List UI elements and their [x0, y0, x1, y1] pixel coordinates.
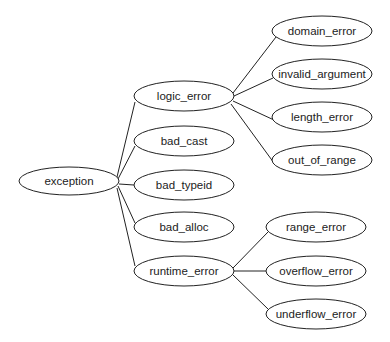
node-range-error: range_error — [266, 212, 366, 242]
node-underflow-error: underflow_error — [266, 299, 366, 329]
node-runtime-error: runtime_error — [134, 256, 234, 286]
node-label: underflow_error — [276, 308, 357, 320]
node-length-error: length_error — [272, 102, 372, 132]
node-label: domain_error — [288, 25, 357, 37]
node-exception: exception — [19, 167, 119, 195]
edge-runtime_error-to-range_error — [233, 232, 268, 268]
node-label: range_error — [286, 221, 346, 233]
node-label: length_error — [291, 111, 353, 123]
node-bad-typeid: bad_typeid — [134, 170, 234, 200]
edge-logic_error-to-domain_error — [233, 37, 276, 93]
node-label: invalid_argument — [278, 68, 366, 80]
edge-logic_error-to-length_error — [233, 101, 274, 120]
node-label: logic_error — [157, 90, 211, 102]
node-label: runtime_error — [149, 265, 218, 277]
nodes-layer: exceptionlogic_errorbad_castbad_typeidba… — [19, 16, 372, 329]
node-bad-cast: bad_cast — [134, 126, 234, 156]
node-invalid-argument: invalid_argument — [272, 59, 372, 89]
edge-logic_error-to-out_of_range — [231, 104, 274, 163]
node-bad-alloc: bad_alloc — [134, 212, 234, 242]
node-domain-error: domain_error — [272, 16, 372, 46]
node-label: bad_typeid — [156, 179, 212, 191]
edge-exception-to-bad_typeid — [119, 184, 134, 185]
node-label: bad_cast — [161, 135, 208, 147]
edge-runtime_error-to-underflow_error — [233, 275, 268, 309]
edge-logic_error-to-invalid_argument — [234, 78, 273, 96]
node-logic-error: logic_error — [134, 81, 234, 111]
edge-exception-to-logic_error — [117, 102, 135, 177]
node-label: bad_alloc — [159, 221, 208, 233]
node-label: out_of_range — [288, 154, 356, 166]
node-out-of-range: out_of_range — [272, 145, 372, 175]
node-label: overflow_error — [279, 265, 353, 277]
node-label: exception — [44, 175, 93, 187]
node-overflow-error: overflow_error — [266, 256, 366, 286]
edge-exception-to-runtime_error — [117, 188, 135, 266]
exception-hierarchy-diagram: exceptionlogic_errorbad_castbad_typeidba… — [0, 0, 390, 342]
